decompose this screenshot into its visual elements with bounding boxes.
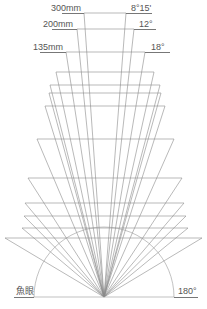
ray-line xyxy=(104,29,134,297)
view-angle-rays xyxy=(5,13,202,297)
focal-200mm-label: 200mm xyxy=(43,19,73,29)
focal-300mm-underline xyxy=(62,13,84,14)
angle-12-label: 12° xyxy=(139,19,153,29)
ray-line xyxy=(37,139,104,297)
fisheye-underline xyxy=(14,297,34,298)
ray-line xyxy=(104,178,182,297)
angle-of-view-diagram xyxy=(0,0,207,309)
angle-12-underline xyxy=(134,29,156,30)
ray-line xyxy=(45,106,104,297)
ray-line xyxy=(104,203,184,297)
ray-line xyxy=(77,29,104,297)
angle-18-underline xyxy=(145,52,170,53)
ray-line xyxy=(28,178,104,297)
focal-200mm-underline xyxy=(52,29,77,30)
angle-18-label: 18° xyxy=(151,42,165,52)
ray-line xyxy=(104,52,145,297)
ray-line xyxy=(84,13,104,297)
ray-line xyxy=(104,93,161,297)
ray-line xyxy=(104,228,188,297)
angle-180-underline xyxy=(174,297,198,298)
angle-8-15-underline xyxy=(126,13,152,14)
ray-line xyxy=(104,106,165,297)
fisheye-semicircle xyxy=(34,227,174,297)
focal-135mm-label: 135mm xyxy=(33,42,63,52)
ray-line xyxy=(66,52,104,297)
focal-300mm-label: 300mm xyxy=(51,3,81,13)
angle-8-15-label: 8°15' xyxy=(131,3,151,13)
angle-180-label: 180° xyxy=(178,286,197,296)
ray-line xyxy=(49,93,104,297)
focal-135mm-underline xyxy=(40,52,66,53)
fisheye-label: 魚眼 xyxy=(16,286,34,296)
